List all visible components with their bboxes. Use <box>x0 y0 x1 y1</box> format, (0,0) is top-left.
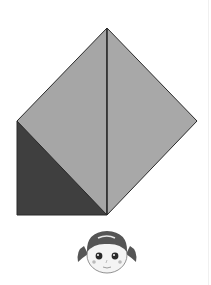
canvas <box>0 0 211 285</box>
girl-face-icon <box>78 231 137 273</box>
paper-right-face <box>107 28 197 215</box>
origami-diagram <box>0 0 211 285</box>
page-edge-line <box>208 0 209 285</box>
